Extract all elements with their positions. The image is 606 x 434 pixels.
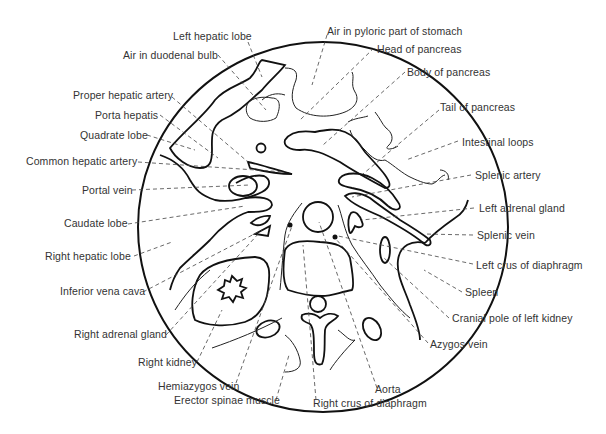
- liver-outline: [170, 60, 285, 168]
- label-aorta: Aorta: [375, 383, 401, 395]
- spinal-canal: [310, 296, 326, 312]
- label-splenic-artery: Splenic artery: [475, 169, 541, 181]
- air-in-duodenal-bulb: [246, 97, 279, 121]
- left-adrenal-gland: [348, 212, 362, 233]
- label-hemiazygos-vein: Hemiazygos vein: [158, 380, 239, 392]
- label-right-hepatic-lobe: Right hepatic lobe: [45, 250, 131, 262]
- label-erector-spinae-muscle: Erector spinae muscle: [174, 394, 280, 406]
- label-inferior-vena-cava: Inferior vena cava: [60, 285, 145, 297]
- label-right-kidney: Right kidney: [138, 356, 197, 368]
- label-proper-hepatic-artery: Proper hepatic artery: [73, 89, 173, 101]
- right-kidney-pelvis: [218, 276, 246, 302]
- vertebral-body: [283, 241, 353, 296]
- label-left-crus-of-diaphragm: Left crus of diaphragm: [476, 259, 583, 271]
- right-adrenal-gland: [251, 216, 270, 236]
- right-kidney: [192, 257, 269, 325]
- caudate-contour: [170, 197, 272, 290]
- porta-hepatis-vessel: [257, 144, 266, 153]
- left-erector-spinae: [359, 315, 385, 344]
- label-porta-hepatis: Porta hepatis: [95, 109, 158, 121]
- spinous-process: [302, 314, 338, 365]
- aorta: [303, 202, 333, 232]
- label-body-of-pancreas: Body of pancreas: [407, 66, 490, 78]
- common-hepatic-artery: [248, 162, 292, 174]
- label-left-adrenal-gland: Left adrenal gland: [479, 202, 565, 214]
- label-cranial-pole-of-left-kidney: Cranial pole of left kidney: [452, 312, 573, 324]
- label-splenic-vein: Splenic vein: [477, 229, 535, 241]
- label-air-in-duodenal-bulb: Air in duodenal bulb: [123, 49, 218, 61]
- azygos-vein-dot: [333, 235, 338, 240]
- label-right-crus-of-diaphragm: Right crus of diaphragm: [313, 397, 427, 409]
- label-left-hepatic-lobe: Left hepatic lobe: [173, 30, 252, 42]
- splenic-vein: [345, 193, 431, 245]
- label-azygos-vein: Azygos vein: [430, 338, 488, 350]
- label-tail-of-pancreas: Tail of pancreas: [440, 101, 515, 113]
- label-air-in-pyloric-part-of-stomach: Air in pyloric part of stomach: [327, 25, 462, 37]
- stomach-wall: [262, 94, 285, 100]
- intestinal-loops-contour: [348, 112, 448, 184]
- erector-spinae-contours: [285, 330, 355, 372]
- label-spleen: Spleen: [465, 286, 498, 298]
- label-caudate-lobe: Caudate lobe: [64, 217, 128, 229]
- label-portal-vein: Portal vein: [82, 184, 133, 196]
- label-common-hepatic-artery: Common hepatic artery: [26, 155, 137, 167]
- label-right-adrenal-gland: Right adrenal gland: [74, 328, 167, 340]
- label-quadrate-lobe: Quadrate lobe: [80, 129, 148, 141]
- label-head-of-pancreas: Head of pancreas: [377, 43, 462, 55]
- label-intestinal-loops: Intestinal loops: [462, 136, 534, 148]
